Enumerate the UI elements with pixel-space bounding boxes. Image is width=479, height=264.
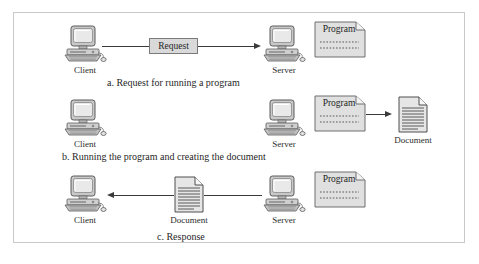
program-label-a: Program xyxy=(314,24,364,35)
computer-icon xyxy=(261,25,307,65)
diagram-row-b: Client Server xyxy=(14,89,466,165)
arrow-left-c xyxy=(107,192,114,198)
connector-line-a-left xyxy=(102,46,149,47)
diagram-row-c: Client Document xyxy=(14,165,466,244)
caption-c: c. Response xyxy=(157,231,205,243)
request-message-box: Request xyxy=(149,38,198,54)
diagram-row-a: Client Request Server xyxy=(14,13,466,89)
arrow-right-b xyxy=(385,111,392,117)
caption-b: b. Running the program and creating the … xyxy=(62,151,266,163)
program-label-c: Program xyxy=(314,174,364,185)
caption-a: a. Request for running a program xyxy=(107,77,240,89)
server-label-a: Server xyxy=(261,65,307,76)
server-computer-icon-b: Server xyxy=(261,99,307,139)
document-icon xyxy=(398,96,430,134)
client-computer-icon-c: Client xyxy=(62,175,108,215)
client-label-a: Client xyxy=(62,65,108,76)
server-computer-icon-c: Server xyxy=(261,175,307,215)
document-label-b: Document xyxy=(378,135,448,146)
connector-line-a-right xyxy=(198,46,257,47)
arrow-right-a xyxy=(254,43,261,49)
server-computer-icon-a: Server xyxy=(261,25,307,65)
client-computer-icon-b: Client xyxy=(62,99,108,139)
computer-icon xyxy=(62,175,108,215)
program-label-b: Program xyxy=(314,98,364,109)
connector-line-c-right xyxy=(204,195,262,196)
program-sheet-b: Program xyxy=(314,95,372,133)
document-sheet-c: Document xyxy=(174,176,204,214)
server-label-b: Server xyxy=(261,139,307,150)
document-label-c: Document xyxy=(154,215,224,226)
client-label-b: Client xyxy=(62,139,108,150)
client-computer-icon-a: Client xyxy=(62,25,108,65)
connector-line-c-left xyxy=(114,195,174,196)
client-label-c: Client xyxy=(62,215,108,226)
computer-icon xyxy=(261,175,307,215)
document-sheet-b: Document xyxy=(398,96,428,134)
computer-icon xyxy=(62,25,108,65)
program-sheet-a: Program xyxy=(314,21,372,59)
computer-icon xyxy=(62,99,108,139)
program-sheet-c: Program xyxy=(314,171,372,209)
document-icon xyxy=(174,176,206,214)
computer-icon xyxy=(261,99,307,139)
figure-frame: Client Request Server xyxy=(13,12,465,243)
server-label-c: Server xyxy=(261,215,307,226)
